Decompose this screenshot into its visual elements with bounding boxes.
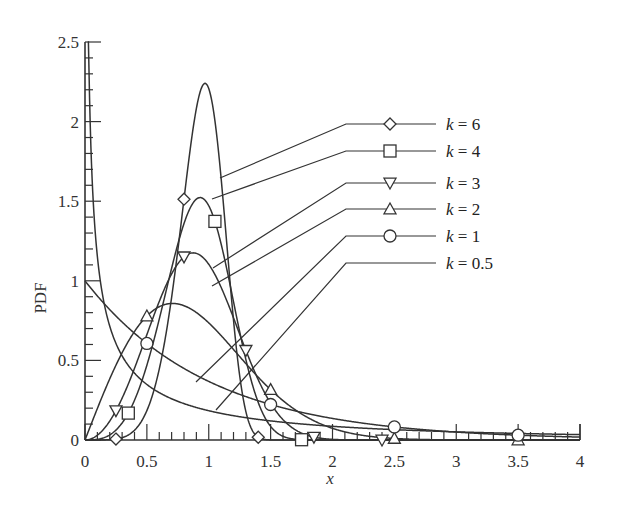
- legend-label: k = 2: [446, 200, 480, 219]
- circle-marker-icon: [388, 421, 400, 433]
- square-marker-icon: [384, 145, 396, 157]
- curves: [85, 42, 580, 440]
- legend-label: k = 1: [446, 227, 480, 246]
- x-axis-title: x: [325, 469, 334, 488]
- circle-marker-icon: [512, 429, 524, 441]
- x-tick-label: 3: [452, 452, 461, 471]
- x-tick-label: 0: [81, 452, 90, 471]
- x-tick-label: 1: [205, 452, 214, 471]
- curve-k-3: [85, 253, 580, 440]
- y-tick-label: 1.5: [58, 192, 79, 211]
- y-tick-label: 1: [71, 272, 80, 291]
- circle-marker-icon: [265, 398, 277, 410]
- weibull-pdf-chart: 00.511.522.533.5400.511.522.5 k = 6k = 4…: [0, 0, 617, 518]
- legend-label: k = 4: [446, 142, 481, 161]
- y-tick-label: 2.5: [58, 33, 79, 52]
- legend-label: k = 3: [446, 174, 480, 193]
- square-marker-icon: [209, 215, 221, 227]
- square-marker-icon: [122, 407, 134, 419]
- curve-k-4: [85, 198, 580, 440]
- square-marker-icon: [296, 434, 308, 446]
- x-tick-label: 3.5: [508, 452, 529, 471]
- diamond-marker-icon: [178, 193, 190, 205]
- legend-label: k = 0.5: [446, 254, 493, 273]
- x-tick-label: 0.5: [136, 452, 157, 471]
- x-tick-label: 2.5: [384, 452, 405, 471]
- axes: 00.511.522.533.5400.511.522.5: [58, 33, 585, 471]
- circle-marker-icon: [384, 230, 396, 242]
- x-tick-label: 1.5: [260, 452, 281, 471]
- triangle-down-marker-icon: [110, 406, 122, 417]
- x-tick-label: 4: [576, 452, 585, 471]
- y-tick-label: 2: [71, 113, 80, 132]
- legend: k = 6k = 4k = 3k = 2k = 1k = 0.5: [384, 115, 493, 273]
- curve-k-1: [85, 281, 580, 437]
- curve-k-0_5: [88, 42, 580, 435]
- circle-marker-icon: [141, 337, 153, 349]
- diamond-marker-icon: [384, 118, 396, 130]
- y-tick-label: 0.5: [58, 351, 79, 370]
- triangle-down-marker-icon: [240, 345, 252, 356]
- legend-leader-lines: [196, 124, 436, 410]
- legend-label: k = 6: [446, 115, 480, 134]
- diamond-marker-icon: [110, 433, 122, 445]
- leader-line: [213, 183, 436, 268]
- curve-k-6: [85, 83, 580, 440]
- y-axis-title: PDF: [31, 282, 50, 313]
- y-tick-label: 0: [71, 431, 80, 450]
- leader-line: [216, 263, 436, 410]
- leader-line: [212, 151, 436, 199]
